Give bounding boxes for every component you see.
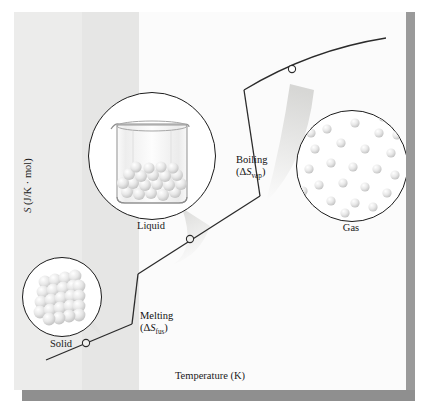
phase-label-gas: Gas <box>296 222 406 233</box>
plate-shadow-bottom <box>22 390 415 401</box>
x-axis-label: Temperature (K) <box>14 370 406 381</box>
marker-gas <box>288 65 295 72</box>
annotation-melting-delta: (ΔSfus) <box>140 322 173 336</box>
curve-segment-melting-jump <box>132 274 138 324</box>
marker-liquid <box>186 235 193 242</box>
inset-liquid <box>88 92 216 220</box>
gas-particles-illustration <box>297 111 406 221</box>
annotation-boiling: Boiling (ΔSvap) <box>236 154 268 180</box>
plot-area: Solid <box>14 12 406 390</box>
annotation-melting-name: Melting <box>140 310 173 322</box>
phase-label-liquid: Liquid <box>88 220 214 231</box>
entropy-temperature-figure: Solid <box>0 0 423 419</box>
annotation-boiling-delta: (ΔSvap) <box>236 166 268 180</box>
inset-solid <box>22 257 102 337</box>
annotation-melting: Melting (ΔSfus) <box>140 310 173 336</box>
liquid-beaker-illustration <box>89 93 215 219</box>
y-axis-label: S (J/K · mol) <box>22 146 33 226</box>
solid-lattice-illustration <box>23 258 101 336</box>
curve-segment-gas <box>244 38 386 90</box>
inset-gas <box>296 110 406 222</box>
phase-label-solid: Solid <box>22 338 100 349</box>
annotation-boiling-name: Boiling <box>236 154 268 166</box>
